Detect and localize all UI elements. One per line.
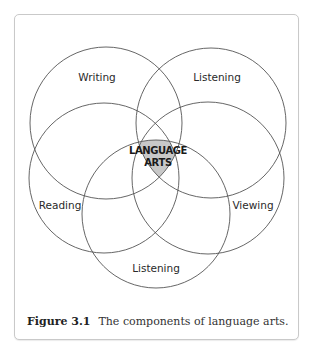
label-viewing: Viewing (232, 199, 273, 211)
label-writing: Writing (78, 71, 116, 83)
figure-number: Figure 3.1 (27, 315, 90, 328)
center-label-line1: LANGUAGE (129, 145, 188, 156)
label-reading: Reading (39, 199, 82, 211)
caption-text: The components of language arts. (98, 315, 288, 328)
venn-diagram: Writing Listening Reading Viewing Listen… (0, 0, 317, 347)
center-label-line2: ARTS (144, 157, 172, 168)
label-listening-top: Listening (193, 71, 241, 83)
label-listening-bottom: Listening (132, 262, 180, 274)
circle-reading (29, 103, 179, 253)
circle-viewing (132, 102, 284, 254)
figure-caption: Figure 3.1The components of language art… (27, 315, 288, 328)
